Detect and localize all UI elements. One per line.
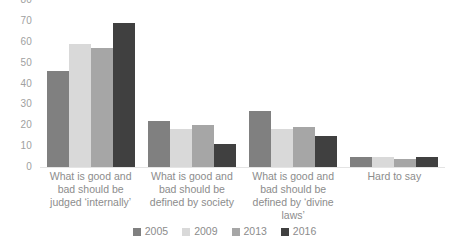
legend-swatch-icon [182, 228, 190, 236]
bar[interactable]: 20 [192, 125, 214, 167]
bar-slot: 4 [394, 0, 416, 167]
bar-chart: 80706050403020100 4659576922182011271819… [0, 0, 449, 250]
legend-label: 2013 [244, 226, 267, 237]
y-axis: 80706050403020100 [0, 0, 36, 168]
y-axis-tick: 0 [26, 162, 32, 172]
y-axis-tick: 30 [20, 99, 32, 109]
bar-slot: 18 [271, 0, 293, 167]
bar-slot: 27 [249, 0, 271, 167]
y-axis-tick: 60 [20, 37, 32, 47]
legend-item[interactable]: 2009 [182, 226, 217, 237]
bar-group: 22182011 [141, 0, 242, 167]
legend-item[interactable]: 2013 [232, 226, 267, 237]
bar[interactable]: 18 [271, 129, 293, 167]
bar-slot: 18 [170, 0, 192, 167]
plot-wrapper: 80706050403020100 4659576922182011271819… [0, 0, 449, 168]
category-label: What is good and bad should be judged ‘i… [40, 170, 141, 222]
bar-groups: 4659576922182011271819155545 [40, 0, 445, 167]
bar[interactable]: 5 [350, 157, 372, 167]
bar-group: 5545 [344, 0, 445, 167]
bar-slot: 19 [293, 0, 315, 167]
bar[interactable]: 11 [214, 144, 236, 167]
bar-slot: 69 [113, 0, 135, 167]
bar-slot: 59 [69, 0, 91, 167]
bar-slot: 46 [47, 0, 69, 167]
category-label: Hard to say [344, 170, 445, 222]
axis-baseline [40, 167, 445, 168]
y-axis-tick: 40 [20, 79, 32, 89]
legend-item[interactable]: 2005 [133, 226, 168, 237]
y-axis-tick: 70 [20, 16, 32, 26]
y-axis-tick: 80 [20, 0, 32, 5]
bar-slot: 57 [91, 0, 113, 167]
bar[interactable]: 19 [293, 127, 315, 167]
category-label: What is good and bad should be defined b… [243, 170, 344, 222]
bar-slot: 20 [192, 0, 214, 167]
legend-item[interactable]: 2016 [281, 226, 316, 237]
bar[interactable]: 46 [47, 71, 69, 167]
legend-swatch-icon [133, 228, 141, 236]
legend-label: 2009 [194, 226, 217, 237]
bar-slot: 15 [315, 0, 337, 167]
bar-slot: 5 [372, 0, 394, 167]
y-axis-tick: 10 [20, 141, 32, 151]
bar-slot: 5 [416, 0, 438, 167]
bar-group: 46595769 [40, 0, 141, 167]
bar[interactable]: 27 [249, 111, 271, 167]
legend-label: 2005 [145, 226, 168, 237]
bar[interactable]: 18 [170, 129, 192, 167]
legend-swatch-icon [281, 228, 289, 236]
bar[interactable]: 15 [315, 136, 337, 167]
chart-legend: 2005200920132016 [0, 226, 449, 237]
bar[interactable]: 5 [372, 157, 394, 167]
legend-swatch-icon [232, 228, 240, 236]
bar-slot: 22 [148, 0, 170, 167]
bar[interactable]: 59 [69, 44, 91, 167]
bar-group: 27181915 [243, 0, 344, 167]
bar[interactable]: 22 [148, 121, 170, 167]
bar-slot: 5 [350, 0, 372, 167]
bar[interactable]: 69 [113, 23, 135, 167]
y-axis-tick: 20 [20, 120, 32, 130]
plot-area: 4659576922182011271819155545 [40, 0, 445, 168]
bar-slot: 11 [214, 0, 236, 167]
bar[interactable]: 4 [394, 159, 416, 167]
bar[interactable]: 57 [91, 48, 113, 167]
bar[interactable]: 5 [416, 157, 438, 167]
y-axis-tick: 50 [20, 58, 32, 68]
legend-label: 2016 [293, 226, 316, 237]
category-axis-labels: What is good and bad should be judged ‘i… [40, 170, 445, 222]
category-label: What is good and bad should be defined b… [141, 170, 242, 222]
